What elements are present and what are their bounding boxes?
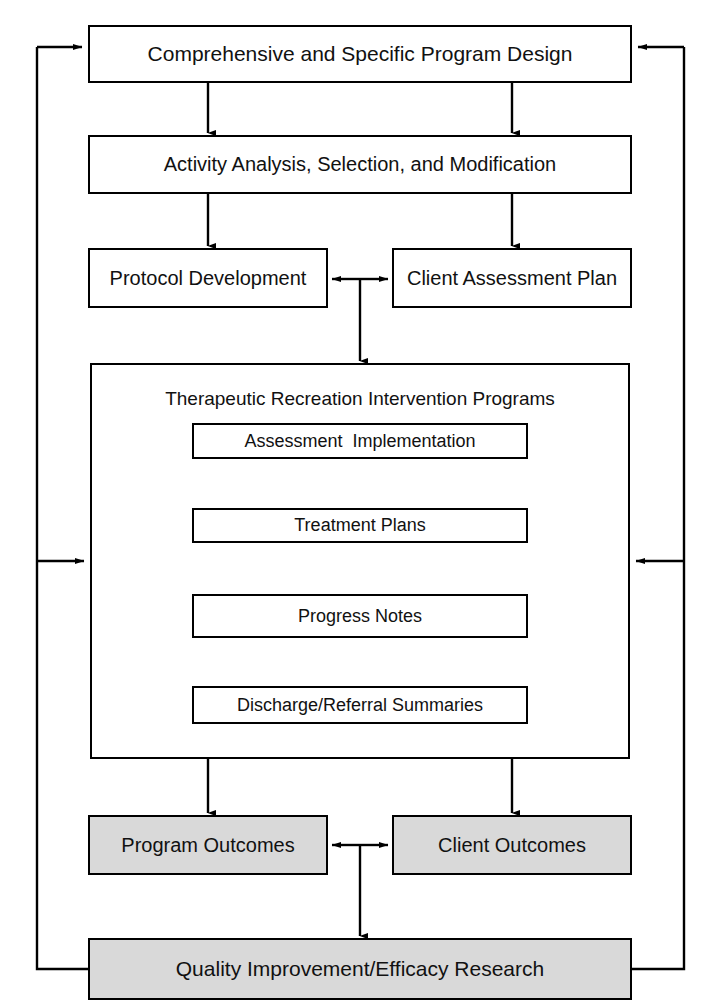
node-label: Activity Analysis, Selection, and Modifi…	[164, 153, 556, 175]
node-label: Progress Notes	[298, 606, 422, 626]
node-label: Quality Improvement/Efficacy Research	[176, 957, 544, 981]
node-discharge-referral-summaries[interactable]: Discharge/Referral Summaries	[192, 686, 528, 724]
node-label: Assessment Implementation	[244, 431, 475, 451]
node-label: Discharge/Referral Summaries	[237, 695, 483, 715]
flowchart-diagram: Comprehensive and Specific Program Desig…	[0, 0, 708, 1006]
node-progress-notes[interactable]: Progress Notes	[192, 594, 528, 638]
node-label: Client Outcomes	[438, 834, 586, 856]
node-activity-analysis[interactable]: Activity Analysis, Selection, and Modifi…	[88, 135, 632, 194]
node-label: Client Assessment Plan	[407, 267, 617, 289]
node-client-assessment-plan[interactable]: Client Assessment Plan	[392, 248, 632, 308]
wire-right-feedback-trunk	[632, 47, 684, 969]
node-label: Program Outcomes	[121, 834, 294, 856]
node-label: Comprehensive and Specific Program Desig…	[148, 42, 573, 66]
container-title-label: Therapeutic Recreation Intervention Prog…	[92, 388, 628, 410]
node-assessment-implementation[interactable]: Assessment Implementation	[192, 423, 528, 459]
node-quality-improvement-efficacy-research[interactable]: Quality Improvement/Efficacy Research	[88, 938, 632, 1000]
node-client-outcomes[interactable]: Client Outcomes	[392, 815, 632, 875]
node-program-outcomes[interactable]: Program Outcomes	[88, 815, 328, 875]
node-comprehensive-program-design[interactable]: Comprehensive and Specific Program Desig…	[88, 25, 632, 83]
node-label: Protocol Development	[110, 267, 307, 289]
node-protocol-development[interactable]: Protocol Development	[88, 248, 328, 308]
wire-left-feedback-trunk	[37, 47, 88, 969]
node-label: Treatment Plans	[294, 515, 425, 535]
node-treatment-plans[interactable]: Treatment Plans	[192, 508, 528, 543]
